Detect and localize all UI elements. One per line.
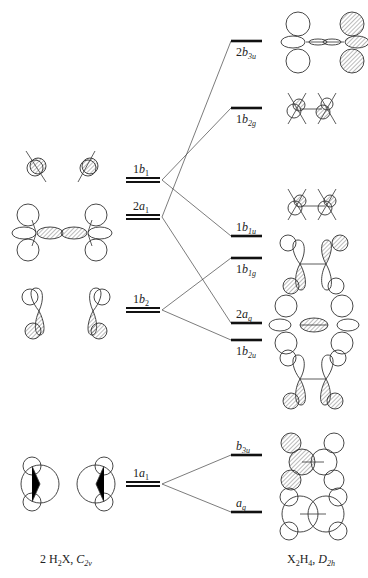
correlation-1b1-1b2g — [162, 108, 231, 180]
fragment-level-2a1: 2a1 — [126, 199, 160, 219]
fragment-level-label: 2a1 — [133, 199, 149, 215]
orbital-1b1u — [288, 189, 336, 220]
orbital-1a1-right — [77, 457, 115, 511]
orbital-1b2u — [280, 350, 346, 409]
correlation-lines — [162, 41, 231, 512]
molecule-level-2b3u: 2b3u — [231, 41, 262, 61]
fragment-level-label: 1b1 — [133, 162, 149, 178]
molecule-level-label: 1b2g — [236, 112, 256, 128]
correlation-1a1-b3u — [162, 455, 231, 484]
molecule-level-1b2g: 1b2g — [231, 108, 262, 128]
molecule-level-label: 1b1g — [236, 262, 256, 278]
orbital-b3u — [281, 433, 344, 490]
correlation-2a1-2ag — [162, 217, 231, 323]
molecule-title: X2H4, D2h — [287, 552, 335, 568]
molecule-level-ag: ag — [231, 496, 262, 512]
correlation-1a1-ag — [162, 484, 231, 512]
diagram-canvas: 1b12a11b21a1 2b3u1b2g1b1u1b1g2ag1b2ub3ua… — [0, 0, 368, 578]
correlation-2a1-2b3u — [162, 41, 231, 217]
molecule-level-1b1u: 1b1u — [231, 220, 262, 236]
molecule-level-b3u: b3u — [231, 439, 262, 455]
orbital-1b1g — [280, 235, 348, 294]
fragment-level-1a1: 1a1 — [126, 466, 160, 486]
fragment-level-label: 1b2 — [133, 292, 149, 308]
mo-correlation-diagram: 1b12a11b21a1 2b3u1b2g1b1u1b1g2ag1b2ub3ua… — [0, 0, 368, 578]
orbital-1b2g — [287, 93, 336, 124]
molecule-level-2ag: 2ag — [231, 307, 262, 323]
orbital-1a1-left — [21, 457, 59, 511]
correlation-1b2-1b1g — [162, 258, 231, 310]
correlation-1b1-1b1u — [162, 180, 231, 236]
molecule-level-label: b3u — [236, 439, 250, 455]
orbital-2b3u — [281, 12, 368, 73]
fragment-level-label: 1a1 — [133, 466, 149, 482]
molecule-level-1b1g: 1b1g — [231, 258, 262, 278]
fragment-levels: 1b12a11b21a1 — [126, 162, 160, 486]
molecule-levels: 2b3u1b2g1b1u1b1g2ag1b2ub3uag — [231, 41, 262, 512]
molecule-level-label: 1b1u — [236, 220, 256, 236]
molecule-level-label: 2b3u — [236, 45, 256, 61]
orbital-2a1-right — [61, 204, 112, 261]
molecule-level-label: 2ag — [236, 307, 252, 323]
correlation-1b2-1b2u — [162, 310, 231, 340]
fragment-level-1b2: 1b2 — [126, 292, 160, 312]
orbital-1b1-right — [78, 151, 98, 182]
orbital-1b1-left — [26, 151, 46, 182]
orbital-2ag — [269, 295, 359, 354]
molecule-level-1b2u: 1b2u — [231, 340, 262, 360]
orbital-ag — [280, 488, 347, 540]
fragment-level-1b1: 1b1 — [126, 162, 160, 182]
orbital-2a1-left — [12, 204, 63, 261]
molecule-level-label: ag — [236, 496, 246, 512]
orbital-1b2-right — [88, 288, 110, 339]
molecule-level-label: 1b2u — [236, 344, 256, 360]
fragment-title: 2 H2X, C2v — [40, 552, 92, 568]
orbital-1b2-left — [22, 288, 44, 339]
